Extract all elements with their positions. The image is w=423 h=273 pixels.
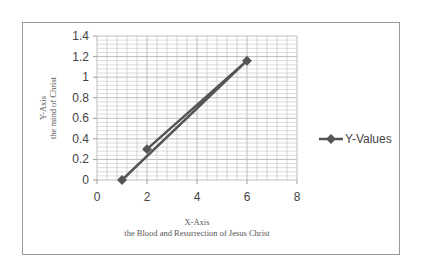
legend-label-y-values: Y-Values: [345, 132, 392, 146]
x-axis-ticks: 02468: [94, 190, 301, 204]
series-line: [122, 61, 247, 180]
y-tick-label: 0.8: [72, 91, 89, 105]
y-tick-label: 0.4: [72, 132, 89, 146]
x-tick-label: 0: [94, 190, 101, 204]
x-tick-label: 6: [244, 190, 251, 204]
y-axis-title: Y-Axis the mind of Christ: [38, 76, 58, 139]
x-axis-title-line1: X-Axis: [184, 217, 209, 227]
x-tick-label: 4: [194, 190, 201, 204]
y-tick-label: 1: [82, 70, 89, 84]
y-tick-label: 0: [82, 173, 89, 187]
y-axis-title-line1: Y-Axis: [38, 96, 48, 120]
legend-diamond-marker-icon: [326, 134, 336, 144]
x-axis-title-line2: the Blood and Resurrection of Jesus Chri…: [124, 228, 270, 238]
y-tick-label: 0.2: [72, 152, 89, 166]
chart-svg: 00.20.40.60.811.21.4 02468 Y-Axis the mi…: [0, 0, 423, 273]
y-tick-label: 1.4: [72, 29, 89, 43]
y-axis-title-line2: the mind of Christ: [48, 76, 58, 139]
legend: Y-Values: [319, 132, 392, 146]
y-tick-label: 0.6: [72, 111, 89, 125]
y-axis-ticks: 00.20.40.60.811.21.4: [72, 29, 89, 187]
x-tick-label: 2: [144, 190, 151, 204]
x-tick-label: 8: [294, 190, 301, 204]
y-tick-label: 1.2: [72, 50, 89, 64]
